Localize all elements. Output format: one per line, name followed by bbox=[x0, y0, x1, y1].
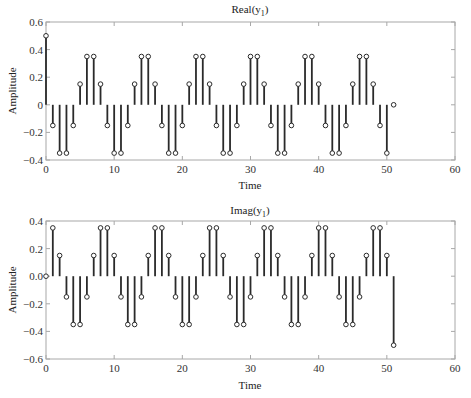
stem-marker bbox=[44, 274, 49, 279]
stem-marker bbox=[180, 123, 185, 128]
stem-marker bbox=[214, 226, 219, 231]
stem-marker bbox=[385, 253, 390, 258]
x-axis-label-real: Time bbox=[239, 179, 262, 191]
stem-marker bbox=[214, 123, 219, 128]
stem-marker bbox=[71, 322, 76, 327]
x-tick-label: 10 bbox=[109, 362, 121, 374]
stem-marker bbox=[112, 151, 117, 156]
stem-marker bbox=[275, 151, 280, 156]
stem-marker bbox=[248, 54, 253, 59]
stem-marker bbox=[391, 103, 396, 108]
x-tick-label: 50 bbox=[381, 362, 393, 374]
stem-marker bbox=[378, 123, 383, 128]
stem-marker bbox=[248, 295, 253, 300]
stem-marker bbox=[71, 123, 76, 128]
stem-marker bbox=[78, 82, 83, 87]
stem-marker bbox=[51, 226, 56, 231]
stem-marker bbox=[126, 322, 131, 327]
stem-marker bbox=[207, 226, 212, 231]
stem-marker bbox=[166, 253, 171, 258]
figure: Real(y1) 0102030405060−0.4−0.200.20.40.6… bbox=[0, 0, 471, 398]
chart-title-imag: Imag(y1) bbox=[230, 204, 270, 219]
stem-marker bbox=[344, 322, 349, 327]
x-tick-label: 20 bbox=[177, 163, 189, 175]
stem-marker bbox=[166, 151, 171, 156]
stem-marker bbox=[289, 123, 294, 128]
stem-marker bbox=[228, 151, 233, 156]
stem-marker bbox=[310, 253, 315, 258]
stem-marker bbox=[337, 295, 342, 300]
stem-marker bbox=[289, 322, 294, 327]
stem-marker bbox=[337, 151, 342, 156]
x-tick-label: 0 bbox=[43, 163, 49, 175]
stem-marker bbox=[235, 123, 240, 128]
stem-marker bbox=[44, 34, 49, 39]
stem-marker bbox=[64, 151, 69, 156]
stems-real bbox=[44, 34, 396, 156]
y-tick-label: 0.2 bbox=[29, 71, 43, 83]
stem-marker bbox=[85, 54, 90, 59]
stem-marker bbox=[146, 54, 151, 59]
stem-marker bbox=[160, 123, 165, 128]
x-tick-label: 0 bbox=[43, 362, 49, 374]
stem-marker bbox=[282, 151, 287, 156]
stem-marker bbox=[153, 226, 158, 231]
stem-marker bbox=[330, 253, 335, 258]
x-tick-label: 40 bbox=[313, 163, 325, 175]
stem-marker bbox=[105, 123, 110, 128]
stem-marker bbox=[187, 322, 192, 327]
x-tick-label: 60 bbox=[450, 163, 462, 175]
stem-marker bbox=[303, 54, 308, 59]
stem-marker bbox=[269, 226, 274, 231]
stem-marker bbox=[221, 253, 226, 258]
stem-marker bbox=[57, 151, 62, 156]
stem-marker bbox=[262, 82, 267, 87]
x-tick-label: 60 bbox=[450, 362, 462, 374]
ticks-real: 0102030405060−0.4−0.200.20.40.6 bbox=[23, 16, 461, 175]
stems-imag bbox=[44, 226, 396, 348]
stem-marker bbox=[228, 295, 233, 300]
stem-marker bbox=[364, 54, 369, 59]
chart-title-real: Real(y1) bbox=[232, 3, 269, 18]
stem-marker bbox=[180, 322, 185, 327]
stem-marker bbox=[235, 322, 240, 327]
chart-imag: Imag(y1) 0102030405060−0.6−0.4−0.20.00.2… bbox=[6, 204, 461, 391]
stem-marker bbox=[330, 151, 335, 156]
stem-marker bbox=[255, 253, 260, 258]
y-tick-label: −0.2 bbox=[23, 298, 43, 310]
stem-marker bbox=[316, 82, 321, 87]
stem-marker bbox=[126, 123, 131, 128]
stem-marker bbox=[91, 54, 96, 59]
stem-marker bbox=[132, 322, 137, 327]
y-tick-label: −0.4 bbox=[23, 325, 43, 337]
stem-marker bbox=[275, 253, 280, 258]
stem-marker bbox=[371, 226, 376, 231]
stem-marker bbox=[269, 123, 274, 128]
x-axis-label-imag: Time bbox=[239, 379, 262, 391]
stem-marker bbox=[200, 54, 205, 59]
stem-marker bbox=[350, 82, 355, 87]
stem-marker bbox=[173, 295, 178, 300]
stem-marker bbox=[364, 253, 369, 258]
x-tick-label: 30 bbox=[245, 362, 257, 374]
stem-marker bbox=[371, 82, 376, 87]
stem-marker bbox=[85, 295, 90, 300]
stem-marker bbox=[378, 226, 383, 231]
y-tick-label: 0.6 bbox=[29, 16, 43, 28]
stem-marker bbox=[98, 82, 103, 87]
stem-marker bbox=[78, 322, 83, 327]
y-tick-label: 0.4 bbox=[29, 215, 43, 227]
stem-marker bbox=[255, 54, 260, 59]
y-axis-label-real: Amplitude bbox=[6, 67, 18, 114]
stem-marker bbox=[385, 151, 390, 156]
stem-marker bbox=[51, 123, 56, 128]
stem-marker bbox=[262, 226, 267, 231]
stem-marker bbox=[132, 82, 137, 87]
stem-marker bbox=[194, 295, 199, 300]
stem-marker bbox=[357, 54, 362, 59]
ticks-imag: 0102030405060−0.6−0.4−0.20.00.20.4 bbox=[23, 215, 461, 374]
stem-marker bbox=[391, 343, 396, 348]
x-tick-label: 20 bbox=[177, 362, 189, 374]
y-tick-label: 0.0 bbox=[29, 270, 43, 282]
stem-marker bbox=[323, 123, 328, 128]
